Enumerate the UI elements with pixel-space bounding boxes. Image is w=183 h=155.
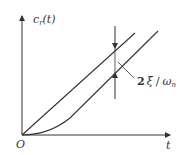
origin-label: O bbox=[16, 138, 25, 151]
ramp-response-diagram: cr(t) O t 2ξ/ωn bbox=[0, 0, 183, 155]
y-axis-label: cr(t) bbox=[33, 13, 56, 27]
x-axis-label: t bbox=[166, 139, 171, 152]
lag-annotation: 2ξ/ωn bbox=[137, 75, 176, 89]
ramp-input-line bbox=[22, 33, 135, 135]
annotation-leader bbox=[118, 62, 134, 78]
